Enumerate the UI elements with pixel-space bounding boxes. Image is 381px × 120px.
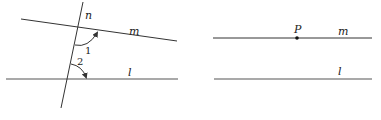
label-m-right: m <box>338 25 348 38</box>
transversal-n <box>61 2 83 108</box>
diagram-canvas: n m l 1 2 P m l <box>0 0 381 120</box>
label-l-left: l <box>128 66 132 79</box>
label-n: n <box>85 9 92 22</box>
label-angle-1: 1 <box>85 45 91 56</box>
line-m-left <box>21 19 177 41</box>
label-angle-2: 2 <box>77 56 83 67</box>
label-l-right: l <box>338 65 342 78</box>
angle-1-arc <box>75 33 97 46</box>
right-figure: P m l <box>213 23 372 79</box>
left-figure: n m l 1 2 <box>6 2 178 108</box>
point-p <box>295 36 299 40</box>
label-m-left: m <box>129 25 139 38</box>
label-p: P <box>293 23 302 36</box>
